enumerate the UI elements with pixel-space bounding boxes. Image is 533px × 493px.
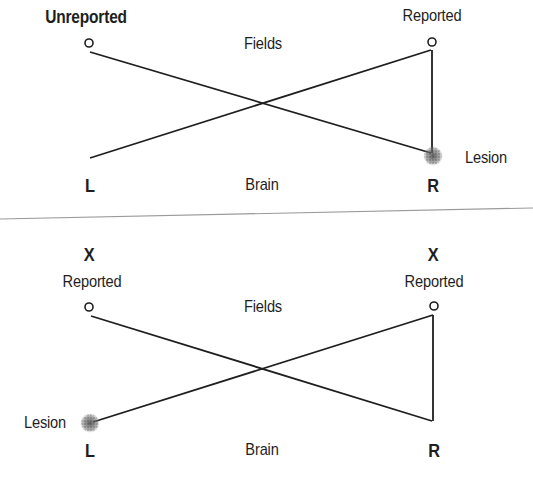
reported-field-point — [428, 38, 436, 46]
unreported-field-point — [85, 39, 93, 47]
bottom-left-hemisphere-label: L — [85, 441, 95, 460]
bottom-fields-label: Fields — [244, 298, 282, 315]
top-reported-label: Reported — [403, 7, 462, 24]
bottom-lesion-label: Lesion — [24, 414, 66, 431]
bottom-right-hemisphere-label: R — [428, 441, 440, 460]
bottom-left-reported-label: Reported — [63, 273, 122, 290]
pathway-right-field-to-left-brain — [90, 50, 431, 158]
top-left-hemisphere-label: L — [85, 176, 95, 195]
pathway-left-field-to-right-brain — [90, 52, 431, 153]
top-lesion-label: Lesion — [465, 149, 507, 166]
panel-separator — [0, 208, 533, 219]
bottom-right-reported-label: Reported — [405, 273, 464, 290]
bottom-right-x-marker: X — [428, 245, 439, 264]
bottom-left-x-marker: X — [84, 245, 95, 264]
top-right-hemisphere-label: R — [427, 176, 439, 195]
left-reported-field-point — [85, 303, 93, 311]
top-panel — [85, 38, 443, 166]
top-fields-label: Fields — [244, 35, 282, 52]
bottom-brain-label: Brain — [245, 441, 278, 458]
lesion-left — [80, 413, 100, 433]
top-unreported-label: Unreported — [45, 8, 127, 26]
bottom-panel — [80, 302, 438, 433]
right-reported-field-point — [430, 302, 438, 310]
lesion-right — [423, 146, 443, 166]
top-brain-label: Brain — [245, 176, 278, 193]
diagram-canvas — [0, 0, 533, 493]
